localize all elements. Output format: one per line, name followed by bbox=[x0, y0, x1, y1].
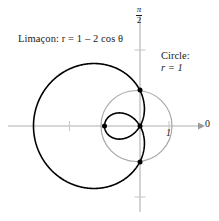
vertical-axis-pi-over-two-label: π 2 bbox=[131, 5, 147, 26]
axes-group bbox=[8, 16, 205, 212]
two-denominator: 2 bbox=[136, 16, 143, 25]
curve-point-dot-1 bbox=[138, 160, 143, 165]
curve-point-dot-3 bbox=[102, 124, 107, 129]
circle-label: Circle: r = 1 bbox=[161, 50, 190, 75]
polar-axis-zero-label: 0 bbox=[205, 118, 210, 130]
curve-point-dot-0 bbox=[138, 88, 143, 93]
x-axis-tick-label-one: 1 bbox=[166, 127, 171, 139]
circle-label-equation: r = 1 bbox=[161, 62, 190, 74]
tick-marks-group bbox=[70, 50, 170, 197]
pi-numerator: π bbox=[136, 5, 143, 14]
circle-label-title: Circle: bbox=[161, 50, 190, 61]
pi-over-two-fraction: π 2 bbox=[136, 5, 143, 25]
limacon-label: Limaçon: r = 1 – 2 cos θ bbox=[18, 33, 123, 45]
polar-graph-figure: Limaçon: r = 1 – 2 cos θ Circle: r = 1 0… bbox=[0, 0, 219, 221]
curve-point-dot-2 bbox=[138, 124, 143, 129]
polar-axis-arrowhead bbox=[198, 123, 205, 130]
